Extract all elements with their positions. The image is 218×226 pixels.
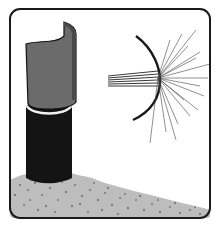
incoming-lines (108, 71, 158, 86)
sleeve (26, 22, 76, 109)
illustration (0, 0, 218, 226)
radiating-rays (150, 30, 210, 143)
pipe (26, 100, 72, 183)
